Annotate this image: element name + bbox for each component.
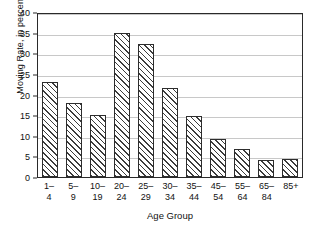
x-tick-label: 85+: [279, 181, 303, 192]
y-tick-35: 35: [20, 28, 37, 39]
bar-1-4: [42, 82, 58, 177]
y-tick-20: 20: [20, 90, 37, 101]
bar-cell: [158, 14, 182, 177]
y-tick-label: 40: [20, 9, 33, 18]
bar-cell: [182, 14, 206, 177]
y-tick-label: 25: [20, 70, 33, 79]
y-tick-label: 30: [20, 50, 33, 59]
bar-cell: [278, 14, 302, 177]
x-tick-label: 45– 54: [206, 181, 230, 202]
y-tick-25: 25: [20, 69, 37, 80]
bar-65-84: [258, 160, 274, 177]
y-tick-label: 20: [20, 91, 33, 100]
x-tick-label: 55– 64: [230, 181, 254, 202]
x-tick-label: 25– 29: [134, 181, 158, 202]
y-tick-10: 10: [20, 131, 37, 142]
y-tick-15: 15: [20, 111, 37, 122]
bar-55-64: [234, 149, 250, 177]
bar-cell: [134, 14, 158, 177]
bar-30-34: [162, 88, 178, 178]
gridline-0: [38, 179, 302, 180]
bar-cell: [254, 14, 278, 177]
x-tick-label: 5– 9: [61, 181, 85, 202]
y-tick-label: 5: [25, 153, 33, 162]
x-axis-title: Age Group: [37, 210, 303, 221]
bar-10-19: [90, 115, 106, 177]
bar-25-29: [138, 44, 154, 177]
bar-20-24: [114, 33, 130, 177]
bar-5-9: [66, 103, 82, 177]
x-tick-label: 30– 34: [158, 181, 182, 202]
y-tick-label: 35: [20, 29, 33, 38]
x-tick-label: 35– 44: [182, 181, 206, 202]
y-tick-label: 0: [25, 174, 33, 183]
bar-cell: [206, 14, 230, 177]
y-tick-label: 10: [20, 132, 33, 141]
moving-rate-bar-chart: Moving Rate, in percent 0510152025303540…: [0, 0, 320, 231]
y-tick-0: 0: [25, 173, 37, 184]
bars-container: [38, 14, 302, 177]
bar-cell: [86, 14, 110, 177]
bar-cell: [110, 14, 134, 177]
bar-35-44: [186, 116, 202, 177]
y-tick-30: 30: [20, 49, 37, 60]
x-tick-label: 65– 84: [255, 181, 279, 202]
x-tick-label: 10– 19: [85, 181, 109, 202]
bar-cell: [38, 14, 62, 177]
bar-cell: [230, 14, 254, 177]
bar-cell: [62, 14, 86, 177]
x-tick-label: 20– 24: [110, 181, 134, 202]
bar-45-54: [210, 139, 226, 177]
y-tick-label: 15: [20, 112, 33, 121]
bar-85+: [282, 159, 298, 177]
plot-area: [37, 13, 303, 178]
y-tick-5: 5: [25, 152, 37, 163]
y-tick-40: 40: [20, 8, 37, 19]
x-tick-label: 1– 4: [37, 181, 61, 202]
y-axis-ticks: 0510152025303540: [0, 13, 37, 178]
